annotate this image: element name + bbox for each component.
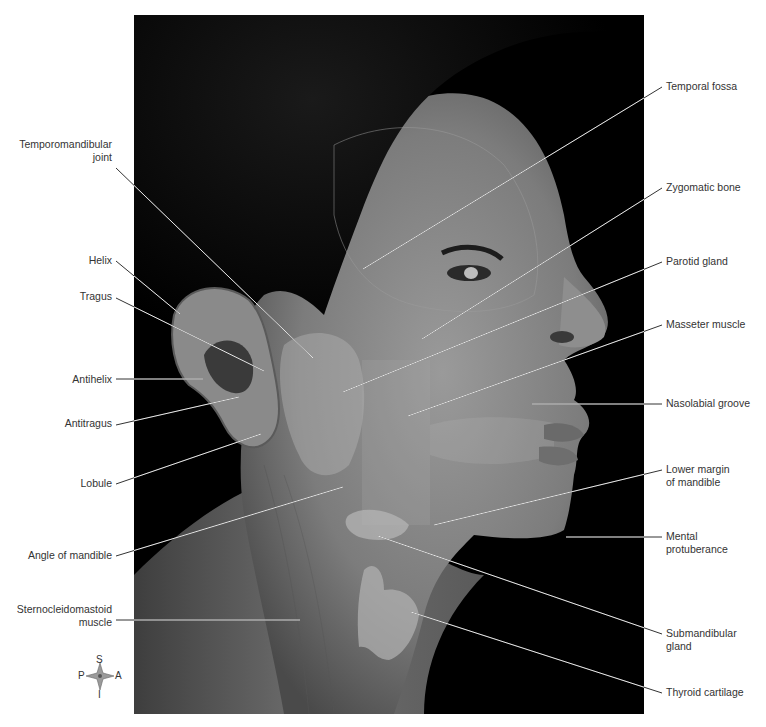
label-line: of mandible [666, 476, 730, 489]
label-nasolabial-groove: Nasolabial groove [666, 397, 750, 410]
label-line: Antitragus [65, 417, 112, 430]
label-helix: Helix [89, 254, 112, 267]
label-line: Angle of mandible [28, 549, 112, 562]
label-line: Temporomandibular [19, 138, 112, 151]
label-line: Submandibular [666, 627, 737, 640]
label-line: Nasolabial groove [666, 397, 750, 410]
label-line: Mental [666, 530, 728, 543]
label-line: Antihelix [72, 373, 112, 386]
label-zygomatic-bone: Zygomatic bone [666, 181, 741, 194]
orientation-compass: S P A I [78, 654, 128, 714]
label-sternocleidomastoid-muscle: Sternocleidomastoidmuscle [17, 603, 112, 629]
compass-star-icon [78, 654, 128, 704]
label-submandibular-gland: Submandibulargland [666, 627, 737, 653]
label-line: Temporal fossa [666, 80, 737, 93]
label-antitragus: Antitragus [65, 417, 112, 430]
head-profile-illustration [134, 15, 644, 714]
label-line: Parotid gland [666, 255, 728, 268]
label-line: Masseter muscle [666, 318, 745, 331]
label-line: gland [666, 640, 737, 653]
label-line: Zygomatic bone [666, 181, 741, 194]
label-lower-margin-of-mandible: Lower marginof mandible [666, 463, 730, 489]
head-neck-photo [134, 15, 644, 714]
label-thyroid-cartilage: Thyroid cartilage [666, 686, 744, 699]
label-line: Lower margin [666, 463, 730, 476]
label-mental-protuberance: Mentalprotuberance [666, 530, 728, 556]
label-line: Helix [89, 254, 112, 267]
anatomy-figure: TemporomandibularjointHelixTragusAntihel… [0, 0, 766, 727]
label-line: joint [19, 151, 112, 164]
label-angle-of-mandible: Angle of mandible [28, 549, 112, 562]
label-tragus: Tragus [80, 290, 112, 303]
label-parotid-gland: Parotid gland [666, 255, 728, 268]
label-masseter-muscle: Masseter muscle [666, 318, 745, 331]
label-lobule: Lobule [80, 477, 112, 490]
label-line: muscle [17, 616, 112, 629]
label-line: Lobule [80, 477, 112, 490]
label-line: Tragus [80, 290, 112, 303]
label-line: Thyroid cartilage [666, 686, 744, 699]
label-line: Sternocleidomastoid [17, 603, 112, 616]
label-temporal-fossa: Temporal fossa [666, 80, 737, 93]
label-temporomandibular-joint: Temporomandibularjoint [19, 138, 112, 164]
label-line: protuberance [666, 543, 728, 556]
label-antihelix: Antihelix [72, 373, 112, 386]
